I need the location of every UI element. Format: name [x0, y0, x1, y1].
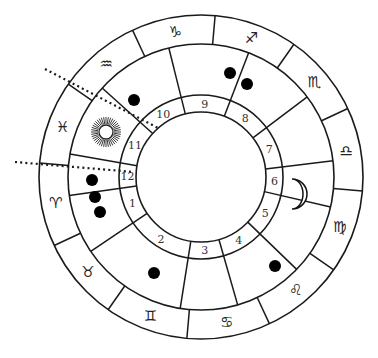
sign-divider: [187, 309, 190, 338]
house-number-9: 9: [201, 98, 208, 111]
house-number-11: 11: [128, 139, 142, 152]
pisces-icon: ♓︎: [56, 118, 69, 136]
house-number-1: 1: [129, 197, 136, 210]
house-number-7: 7: [266, 143, 273, 156]
aries-icon: ♈︎: [49, 194, 62, 212]
sun-icon: [91, 117, 121, 147]
sign-divider: [68, 84, 92, 101]
house-cusp: [219, 239, 238, 304]
cancer-icon: ♋︎: [220, 313, 233, 331]
capricorn-icon: ♑︎: [169, 23, 182, 41]
inner-ring: [136, 112, 266, 242]
planet-dot: [128, 94, 140, 106]
gemini-icon: ♊︎: [144, 307, 157, 325]
house-cusp: [266, 161, 333, 169]
house-cusp: [253, 97, 307, 138]
sign-divider: [333, 189, 362, 192]
sign-divider: [133, 30, 145, 56]
aquarius-icon: ♒︎: [99, 55, 112, 73]
sagittarius-icon: ♐︎: [245, 29, 258, 47]
sign-divider: [213, 16, 216, 45]
house-number-4: 4: [235, 234, 242, 247]
house-number-2: 2: [157, 233, 164, 246]
planet-dot: [224, 67, 236, 79]
ascendant-line: [15, 162, 134, 172]
planet-dot: [241, 78, 253, 90]
house-cusp: [180, 241, 191, 308]
taurus-icon: ♉︎: [81, 263, 94, 281]
planet-dot: [89, 191, 101, 203]
planet-dot: [86, 174, 98, 186]
sign-divider: [310, 253, 334, 270]
sign-divider: [108, 286, 125, 310]
house-number-6: 6: [271, 175, 278, 188]
house-number-3: 3: [201, 244, 208, 257]
house-cusp: [69, 186, 136, 195]
house-number-8: 8: [242, 112, 249, 125]
moon-icon: [292, 179, 307, 209]
scorpio-icon: ♏︎: [307, 73, 321, 91]
house-cusps: [69, 48, 333, 308]
house-cusp: [169, 48, 185, 114]
planet-dot: [148, 267, 160, 279]
horoscope-chart: ♑︎♐︎♏︎♎︎♍︎♌︎♋︎♊︎♉︎♈︎♓︎♒︎ 123456789101112: [0, 0, 378, 358]
sign-divider: [40, 163, 69, 166]
house-number-10: 10: [156, 108, 170, 121]
house-cusp: [91, 213, 147, 251]
house-numbers: 123456789101112: [121, 98, 278, 258]
leo-icon: ♌︎: [289, 281, 302, 299]
house-cusp: [264, 192, 330, 207]
house-cusp: [70, 154, 137, 166]
house-number-5: 5: [262, 207, 269, 220]
planet-dot: [269, 260, 281, 272]
virgo-icon: ♍︎: [333, 218, 346, 236]
sign-divider: [277, 44, 294, 68]
sign-divider: [257, 298, 269, 324]
sign-divider: [322, 109, 348, 121]
sign-divider: [54, 233, 80, 245]
libra-icon: ♎︎: [340, 142, 353, 160]
zodiac-inner-ring: [68, 44, 334, 310]
house-number-12: 12: [121, 170, 135, 183]
planet-dot: [94, 206, 106, 218]
